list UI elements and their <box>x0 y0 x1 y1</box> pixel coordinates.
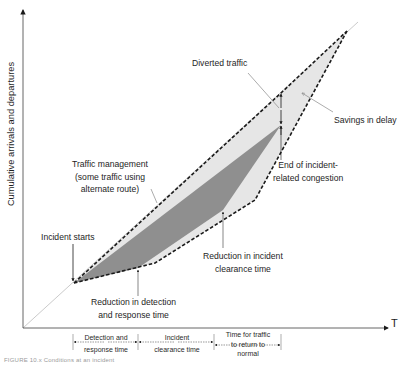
x-axis-label: T <box>391 317 398 329</box>
end-of-congestion-label: End of incident- related congestion <box>273 159 343 184</box>
segment-3-line3: normal <box>215 349 281 359</box>
savings-in-delay-label: Savings in delay <box>334 114 397 127</box>
reduction-detection-line1: Reduction in detection <box>91 296 176 309</box>
reduction-clearance-line2: clearance time <box>203 263 283 276</box>
traffic-mgmt-line3: alternate route) <box>72 183 148 196</box>
diverted-traffic-label: Diverted traffic <box>192 57 247 70</box>
incident-delay-diagram: Cumulative arrivals and departures T Div… <box>0 0 407 366</box>
segment-incident-clearance: Incident clearance time <box>140 333 214 354</box>
y-axis-label: Cumulative arrivals and departures <box>5 39 17 229</box>
reduction-clearance-line1: Reduction in incident <box>203 250 283 263</box>
reduction-detection-line2: and response time <box>91 309 176 322</box>
segment-3-line1: Time for traffic <box>215 330 281 340</box>
end-of-congestion-line1: End of incident- <box>273 159 343 172</box>
segment-2-line2: clearance time <box>140 345 214 355</box>
traffic-mgmt-line2: (some traffic using <box>72 171 148 184</box>
segment-return-to-normal: Time for traffic to return to normal <box>215 330 281 359</box>
reduction-detection-label: Reduction in detection and response time <box>91 296 176 321</box>
segment-1-line2: response time <box>74 345 138 355</box>
segment-2-line1: Incident <box>140 333 214 343</box>
figure-caption: FIGURE 10.x Conditions at an incident <box>4 357 114 363</box>
incident-starts-label: Incident starts <box>41 231 95 244</box>
reduction-clearance-label: Reduction in incident clearance time <box>203 250 283 275</box>
diagram-canvas <box>0 0 407 366</box>
diverted-leader <box>248 73 279 108</box>
end-of-congestion-line2: related congestion <box>273 172 343 185</box>
segment-3-line2: to return to <box>215 340 281 350</box>
traffic-mgmt-leader <box>151 189 157 203</box>
segment-1-line1: Detection and <box>74 333 138 343</box>
traffic-mgmt-line1: Traffic management <box>72 158 148 171</box>
traffic-management-label: Traffic management (some traffic using a… <box>72 158 148 196</box>
segment-detection-response: Detection and response time <box>74 333 138 354</box>
